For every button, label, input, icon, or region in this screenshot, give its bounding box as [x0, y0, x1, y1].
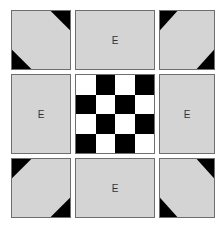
corner-triangles-icon	[12, 159, 70, 217]
tile-bottom-center: E	[75, 158, 155, 218]
tile-label: E	[160, 109, 214, 120]
tile-top-center: E	[75, 10, 155, 70]
corner-triangles-icon	[160, 159, 214, 217]
tile-bottom-left	[11, 158, 71, 218]
checker-cell	[96, 95, 116, 115]
checkerboard	[75, 74, 155, 154]
tile-label: E	[76, 35, 154, 46]
tile-label: E	[76, 183, 154, 194]
tile-top-left	[11, 10, 71, 70]
tile-middle-left: E	[11, 74, 71, 154]
checker-cell	[135, 95, 155, 115]
checker-cell	[115, 95, 135, 115]
tile-middle-right: E	[159, 74, 215, 154]
tile-bottom-right	[159, 158, 215, 218]
checker-cell	[96, 134, 116, 154]
checker-cell	[96, 75, 116, 95]
checker-cell	[115, 114, 135, 134]
checker-cell	[76, 114, 96, 134]
checker-cell	[76, 134, 96, 154]
corner-triangles-icon	[160, 11, 214, 69]
corner-triangles-icon	[12, 11, 70, 69]
tile-label: E	[12, 109, 70, 120]
checker-cell	[115, 134, 135, 154]
checker-cell	[135, 134, 155, 154]
checker-cell	[76, 95, 96, 115]
checker-cell	[96, 114, 116, 134]
tile-top-right	[159, 10, 215, 70]
checker-cell	[76, 75, 96, 95]
checker-cell	[115, 75, 135, 95]
checker-cell	[135, 114, 155, 134]
checker-cell	[135, 75, 155, 95]
